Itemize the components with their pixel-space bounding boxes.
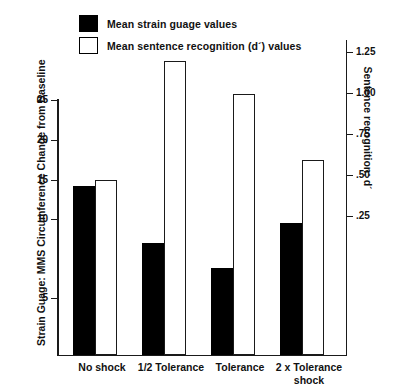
category-label-1: 1/2 Tolerance — [131, 361, 211, 374]
bar-strain-guage-3 — [280, 223, 302, 355]
right-axis-tick — [347, 93, 353, 94]
right-axis-tick-label: .25 — [356, 210, 370, 221]
bar-strain-guage-2 — [211, 268, 233, 355]
legend-label-sentence-recognition: Mean sentence recognition (d´) values — [107, 40, 302, 52]
right-axis-tick-label: .50 — [356, 169, 370, 180]
left-axis-tick — [51, 140, 57, 141]
bar-sentence-recognition-1 — [164, 61, 186, 355]
bar-sentence-recognition-3 — [302, 160, 324, 355]
left-axis-tick-label: 15 — [22, 174, 48, 185]
legend-label-strain-guage: Mean strain guage values — [107, 18, 237, 30]
right-axis-tick — [347, 175, 353, 176]
left-axis-tick-label: 10 — [22, 213, 48, 224]
category-label-0: No shock — [62, 361, 142, 374]
legend-swatch-filled-icon — [79, 15, 98, 32]
right-axis-tick-label: .75 — [356, 128, 370, 139]
right-axis-tick-label: 1.25 — [356, 46, 375, 57]
right-axis-tick — [347, 52, 353, 53]
left-axis-tick-label: 5 — [22, 292, 48, 303]
left-axis-tick — [51, 298, 57, 299]
left-axis-line — [57, 99, 59, 356]
category-label-2: Tolerance — [200, 361, 280, 374]
bar-sentence-recognition-2 — [233, 94, 255, 355]
left-axis-tick-label: 25 — [22, 94, 48, 105]
right-axis-tick — [347, 216, 353, 217]
chart-legend: Mean strain guage values Mean sentence r… — [79, 14, 302, 58]
category-label-3: 2 x Tolerance shock — [269, 361, 349, 386]
right-axis-tick — [347, 134, 353, 135]
right-axis-line — [346, 40, 348, 356]
left-axis-tick-label: 20 — [22, 134, 48, 145]
bar-sentence-recognition-0 — [95, 180, 117, 355]
right-axis-tick-label: 1.00 — [356, 87, 375, 98]
bar-chart: Mean strain guage values Mean sentence r… — [0, 0, 404, 386]
bar-strain-guage-1 — [142, 243, 164, 355]
left-axis-tick — [51, 100, 57, 101]
legend-swatch-hollow-icon — [79, 37, 98, 54]
legend-item-sentence-recognition: Mean sentence recognition (d´) values — [79, 36, 302, 55]
left-axis-tick — [51, 219, 57, 220]
bar-strain-guage-0 — [73, 186, 95, 355]
legend-item-strain-guage: Mean strain guage values — [79, 14, 302, 33]
left-axis-tick — [51, 180, 57, 181]
